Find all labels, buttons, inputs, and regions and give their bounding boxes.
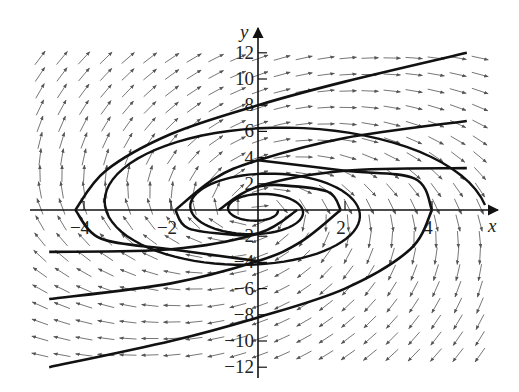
field-arrow xyxy=(147,198,152,214)
field-arrow xyxy=(120,338,137,339)
field-arrow xyxy=(144,101,156,113)
field-arrow xyxy=(296,73,313,76)
field-arrow xyxy=(34,250,47,261)
field-arrow xyxy=(35,233,46,246)
field-arrow xyxy=(98,337,115,339)
field-arrow xyxy=(101,84,112,97)
field-arrow xyxy=(102,117,111,132)
field-arrow xyxy=(410,281,418,296)
field-arrow xyxy=(252,121,268,127)
field-arrow xyxy=(38,132,42,148)
field-arrow xyxy=(98,303,114,307)
field-arrow xyxy=(319,317,333,327)
field-arrow xyxy=(57,84,66,98)
field-arrow xyxy=(473,152,486,163)
field-arrow xyxy=(58,100,66,115)
field-arrow xyxy=(252,319,268,325)
field-arrow xyxy=(169,166,176,182)
field-arrow xyxy=(386,349,399,360)
field-arrow xyxy=(457,248,459,265)
field-arrow xyxy=(412,248,416,265)
field-arrow xyxy=(362,107,379,109)
field-arrow xyxy=(165,53,179,63)
field-arrow xyxy=(39,149,41,166)
field-arrow xyxy=(434,264,439,280)
field-arrow xyxy=(84,165,85,182)
field-arrow xyxy=(364,333,377,344)
field-arrow xyxy=(340,123,357,124)
field-arrow xyxy=(428,105,444,110)
field-arrow xyxy=(122,52,135,63)
field-arrow xyxy=(208,288,225,290)
field-arrow xyxy=(231,153,246,161)
field-arrow xyxy=(36,216,45,231)
field-arrow xyxy=(274,139,291,142)
field-arrow xyxy=(363,350,376,361)
field-arrow xyxy=(364,299,375,312)
field-arrow xyxy=(105,165,107,182)
field-arrow xyxy=(433,281,440,297)
field-arrow xyxy=(79,68,90,81)
field-arrow xyxy=(54,353,71,356)
field-arrow xyxy=(165,70,179,80)
field-arrow xyxy=(431,183,441,197)
trajectory-upper-outer xyxy=(75,53,467,210)
y-tick-label: 10 xyxy=(235,68,254,89)
y-axis-label: y xyxy=(238,21,249,42)
field-arrow xyxy=(209,87,224,95)
field-arrow xyxy=(384,74,401,75)
field-arrow xyxy=(274,352,290,359)
field-arrow xyxy=(274,189,291,191)
field-arrow xyxy=(477,281,482,297)
field-arrow xyxy=(208,71,223,79)
field-arrow xyxy=(296,140,313,141)
field-arrow xyxy=(409,298,418,312)
field-arrow xyxy=(340,57,357,59)
field-arrow xyxy=(59,116,66,132)
direction-field-plot: x y −12−10−8−6−4−224681012−4−224 xyxy=(0,0,519,392)
field-arrow xyxy=(165,86,178,96)
field-arrow xyxy=(384,153,399,161)
field-arrow xyxy=(123,117,133,131)
field-arrow xyxy=(296,123,313,125)
field-arrow xyxy=(171,182,173,199)
field-arrow xyxy=(297,318,312,327)
field-arrow xyxy=(186,272,203,273)
field-arrow xyxy=(320,283,333,294)
field-arrow xyxy=(388,265,395,280)
field-arrow xyxy=(208,54,223,62)
field-arrow xyxy=(411,265,417,281)
field-arrow xyxy=(362,154,378,160)
field-arrow xyxy=(37,199,43,215)
field-arrow xyxy=(274,89,290,93)
field-arrow xyxy=(59,199,65,215)
field-arrow xyxy=(100,68,112,80)
field-arrow xyxy=(362,91,379,92)
field-arrow xyxy=(128,182,129,199)
field-arrow xyxy=(166,118,178,130)
field-arrow xyxy=(38,182,41,199)
field-arrow xyxy=(406,106,423,110)
field-arrow xyxy=(340,74,357,75)
field-arrow xyxy=(252,303,268,309)
field-arrow xyxy=(79,84,89,98)
field-arrow xyxy=(453,332,463,346)
field-arrow xyxy=(148,165,153,181)
field-arrow xyxy=(472,56,489,60)
field-arrow xyxy=(319,351,333,360)
field-arrow xyxy=(54,285,69,293)
field-arrow xyxy=(406,137,422,144)
field-arrow xyxy=(319,334,333,343)
field-arrow xyxy=(124,133,132,148)
y-tick-label: −10 xyxy=(224,330,254,351)
field-arrow xyxy=(391,215,394,232)
field-arrow xyxy=(296,56,313,60)
field-arrow xyxy=(98,269,113,276)
field-arrow xyxy=(57,51,68,64)
y-tick-label: 8 xyxy=(245,94,255,115)
field-arrow xyxy=(318,57,335,60)
field-arrow xyxy=(76,303,92,308)
field-arrow xyxy=(454,315,463,330)
field-arrow xyxy=(186,236,202,243)
field-arrow xyxy=(453,183,463,197)
